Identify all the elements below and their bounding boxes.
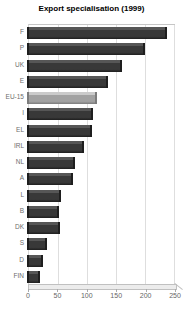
bar-row-F bbox=[29, 25, 174, 41]
gridline-250 bbox=[174, 25, 175, 284]
bar-row-S bbox=[29, 236, 174, 252]
x-tick-mark-100 bbox=[87, 289, 88, 292]
x-tick-label-150: 150 bbox=[110, 292, 122, 299]
bar-row-EL bbox=[29, 123, 174, 139]
bar-row-E bbox=[29, 74, 174, 90]
bar-IRL bbox=[27, 141, 84, 153]
x-tick-mark-200 bbox=[146, 289, 147, 292]
bar-row-A bbox=[29, 171, 174, 187]
category-label-B: B bbox=[0, 203, 24, 219]
bar-row-P bbox=[29, 41, 174, 57]
bar-L bbox=[27, 190, 61, 202]
category-label-EL: EL bbox=[0, 122, 24, 138]
bar-row-EU-15 bbox=[29, 90, 174, 106]
bar-EL bbox=[27, 125, 92, 137]
x-tick-mark-150 bbox=[116, 289, 117, 292]
category-label-E: E bbox=[0, 73, 24, 89]
x-tick-label-0: 0 bbox=[26, 292, 30, 299]
bar-FIN bbox=[27, 271, 40, 283]
category-label-L: L bbox=[0, 187, 24, 203]
bar-row-FIN bbox=[29, 269, 174, 285]
bar-row-I bbox=[29, 106, 174, 122]
export-specialisation-chart: Export specialisation (1999) FPUKEEU-15I… bbox=[0, 0, 191, 311]
x-tick-mark-0 bbox=[28, 289, 29, 292]
category-label-A: A bbox=[0, 170, 24, 186]
bar-A bbox=[27, 173, 73, 185]
bar-row-D bbox=[29, 253, 174, 269]
category-label-EU-15: EU-15 bbox=[0, 89, 24, 105]
x-tick-label-250: 250 bbox=[169, 292, 181, 299]
bar-row-NL bbox=[29, 155, 174, 171]
bar-F bbox=[27, 27, 167, 39]
bar-DK bbox=[27, 222, 60, 234]
bar-UK bbox=[27, 60, 122, 72]
bar-B bbox=[27, 206, 59, 218]
x-tick-mark-250 bbox=[175, 289, 176, 292]
chart-title: Export specialisation (1999) bbox=[0, 4, 183, 13]
category-label-FIN: FIN bbox=[0, 268, 24, 284]
category-label-I: I bbox=[0, 105, 24, 121]
bar-NL bbox=[27, 157, 75, 169]
bar-S bbox=[27, 238, 47, 250]
bar-E bbox=[27, 76, 108, 88]
x-axis: 050100150200250 bbox=[28, 292, 175, 304]
category-label-IRL: IRL bbox=[0, 138, 24, 154]
y-axis-category-labels: FPUKEEU-15IELIRLNLALBDKSDFIN bbox=[0, 24, 24, 284]
bar-EU-15 bbox=[27, 92, 97, 104]
category-label-NL: NL bbox=[0, 154, 24, 170]
category-label-UK: UK bbox=[0, 57, 24, 73]
category-label-F: F bbox=[0, 24, 24, 40]
x-tick-label-200: 200 bbox=[140, 292, 152, 299]
floor-3d-strip bbox=[28, 284, 177, 290]
x-tick-mark-50 bbox=[57, 289, 58, 292]
bar-row-DK bbox=[29, 220, 174, 236]
bar-row-IRL bbox=[29, 139, 174, 155]
plot-area bbox=[28, 24, 175, 284]
bar-D bbox=[27, 255, 43, 267]
category-label-P: P bbox=[0, 40, 24, 56]
bar-row-L bbox=[29, 188, 174, 204]
bar-I bbox=[27, 108, 93, 120]
x-tick-label-50: 50 bbox=[53, 292, 61, 299]
category-label-D: D bbox=[0, 252, 24, 268]
bar-row-B bbox=[29, 204, 174, 220]
bar-row-UK bbox=[29, 58, 174, 74]
x-tick-label-100: 100 bbox=[81, 292, 93, 299]
category-label-DK: DK bbox=[0, 219, 24, 235]
category-label-S: S bbox=[0, 235, 24, 251]
bar-P bbox=[27, 43, 145, 55]
